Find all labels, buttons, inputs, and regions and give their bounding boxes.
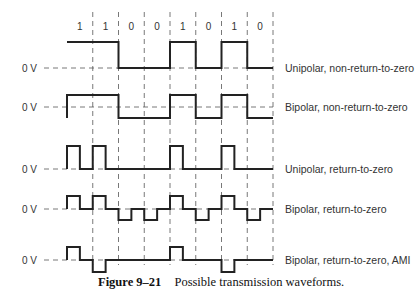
zero-volt-label: 0 V xyxy=(22,204,37,215)
bit-label: 0 xyxy=(129,21,135,32)
waveforms: 0 VUnipolar, non-return-to-zero0 VBipola… xyxy=(22,42,414,272)
waveform-unipolar-nrz: 0 VUnipolar, non-return-to-zero xyxy=(22,42,414,74)
waveform-bipolar-rz-ami: 0 VBipolar, return-to-zero, AMI xyxy=(22,247,410,272)
signal-trace xyxy=(67,196,273,220)
waveform-label: Bipolar, non-return-to-zero xyxy=(285,101,408,113)
waveform-bipolar-nrz: 0 VBipolar, non-return-to-zero xyxy=(22,95,408,118)
zero-volt-label: 0 V xyxy=(22,63,37,74)
signal-trace xyxy=(67,95,273,118)
waveform-label: Unipolar, non-return-to-zero xyxy=(285,62,414,74)
waveform-label: Bipolar, return-to-zero, AMI xyxy=(285,254,410,266)
signal-trace xyxy=(67,42,273,68)
waveform-diagram: 11001010 0 VUnipolar, non-return-to-zero… xyxy=(0,0,419,297)
figure-number: Figure 9–21 xyxy=(98,275,161,289)
figure-caption: Figure 9–21 Possible transmission wavefo… xyxy=(0,275,419,290)
figure-caption-text: Possible transmission waveforms. xyxy=(174,275,344,289)
signal-trace xyxy=(67,146,273,169)
bit-label: 1 xyxy=(77,21,83,32)
waveform-unipolar-rz: 0 VUnipolar, return-to-zero xyxy=(22,146,393,175)
waveform-bipolar-rz: 0 VBipolar, return-to-zero xyxy=(22,196,387,220)
bit-label: 1 xyxy=(103,21,109,32)
waveform-label: Bipolar, return-to-zero xyxy=(285,203,387,215)
bit-label: 1 xyxy=(232,21,238,32)
zero-volt-label: 0 V xyxy=(22,102,37,113)
bit-boundary-lines xyxy=(93,12,273,265)
bit-label: 0 xyxy=(206,21,212,32)
zero-volt-label: 0 V xyxy=(22,255,37,266)
signal-trace xyxy=(67,247,273,272)
bit-label: 0 xyxy=(154,21,160,32)
zero-volt-label: 0 V xyxy=(22,164,37,175)
waveform-label: Unipolar, return-to-zero xyxy=(285,163,393,175)
bit-label: 0 xyxy=(257,21,263,32)
bit-label: 1 xyxy=(180,21,186,32)
